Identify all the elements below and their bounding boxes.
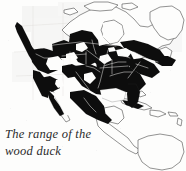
range-map-figure: The range of the wood duck xyxy=(0,0,186,171)
figure-caption-line-1: The range of the xyxy=(5,126,115,143)
figure-caption-line-2: wood duck xyxy=(5,143,115,160)
figure-caption: The range of the wood duck xyxy=(5,126,115,160)
